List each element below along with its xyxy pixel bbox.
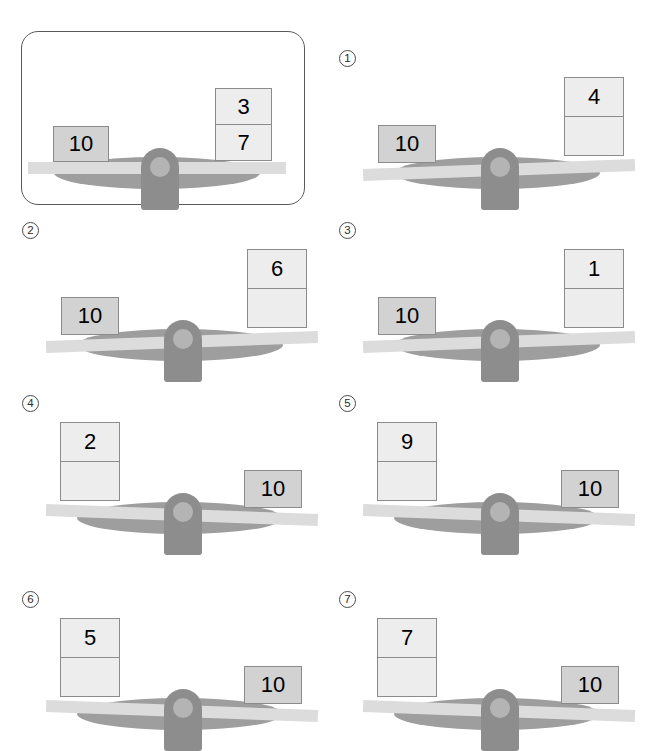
stack-block-bottom <box>564 288 624 328</box>
scale-pivot <box>481 493 519 555</box>
weight-stack-right: 1 <box>564 249 624 328</box>
stack-block-bottom <box>247 288 307 328</box>
stack-block-top: 1 <box>564 249 624 289</box>
weight-block-right: 10 <box>561 470 619 508</box>
weight-block-right: 10 <box>561 666 619 704</box>
stack-block-top: 2 <box>60 422 120 462</box>
stack-block-top: 7 <box>377 618 437 658</box>
weight-stack-left: 2 <box>60 422 120 501</box>
worksheet-page: 10 3 7 1 10 4 2 10 6 3 10 <box>0 0 645 751</box>
balance-scene-2: 10 6 <box>36 212 328 382</box>
scale-pivot <box>141 148 179 210</box>
stack-block-bottom <box>564 116 624 156</box>
weight-block-left: 10 <box>61 297 119 335</box>
scale-pivot <box>164 493 202 555</box>
balance-scene-example: 10 3 7 <box>8 40 300 210</box>
stack-block-bottom: 7 <box>215 124 272 161</box>
stack-block-top: 5 <box>60 618 120 658</box>
balance-scene-5: 9 10 <box>353 385 645 555</box>
weight-stack-right: 3 7 <box>215 88 272 161</box>
scale-pivot <box>164 320 202 382</box>
scale-pivot <box>481 320 519 382</box>
stack-block-top: 9 <box>377 422 437 462</box>
stack-block-bottom <box>377 657 437 697</box>
weight-stack-right: 4 <box>564 77 624 156</box>
stack-block-top: 6 <box>247 249 307 289</box>
weight-block-left: 10 <box>53 126 109 162</box>
balance-scene-3: 10 1 <box>353 212 645 382</box>
weight-stack-left: 5 <box>60 618 120 697</box>
scale-pivot <box>481 689 519 751</box>
balance-scene-4: 2 10 <box>36 385 328 555</box>
scale-pivot <box>481 148 519 210</box>
scale-pivot <box>164 689 202 751</box>
weight-block-right: 10 <box>244 470 302 508</box>
weight-block-left: 10 <box>378 125 436 163</box>
weight-stack-left: 9 <box>377 422 437 501</box>
stack-block-top: 3 <box>215 88 272 125</box>
balance-scene-7: 7 10 <box>353 581 645 751</box>
stack-block-bottom <box>60 657 120 697</box>
stack-block-top: 4 <box>564 77 624 117</box>
weight-stack-left: 7 <box>377 618 437 697</box>
stack-block-bottom <box>377 461 437 501</box>
balance-scene-1: 10 4 <box>353 40 645 210</box>
weight-block-right: 10 <box>244 666 302 704</box>
stack-block-bottom <box>60 461 120 501</box>
weight-block-left: 10 <box>378 297 436 335</box>
balance-scene-6: 5 10 <box>36 581 328 751</box>
weight-stack-right: 6 <box>247 249 307 328</box>
